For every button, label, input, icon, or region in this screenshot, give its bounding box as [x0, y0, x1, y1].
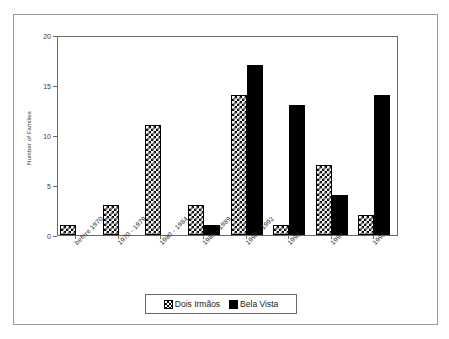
bar — [273, 225, 289, 235]
y-tick-mark — [53, 236, 57, 237]
legend-entry-bela-vista: Bela Vista — [229, 300, 278, 309]
chart-figure: Number of Families 05101520 before 19701… — [0, 0, 449, 339]
legend-swatch-checker-icon — [164, 300, 173, 309]
y-tick-label: 5 — [35, 183, 51, 190]
legend-entry-dois-irmaos: Dois Irmãos — [164, 300, 220, 309]
y-tick-label: 15 — [35, 83, 51, 90]
bar — [103, 205, 119, 235]
bar — [247, 65, 263, 235]
bar — [231, 95, 247, 235]
legend-label-dois-irmaos: Dois Irmãos — [175, 300, 220, 309]
legend-swatch-solid-icon — [229, 300, 238, 309]
bar — [145, 125, 161, 235]
bar — [289, 105, 305, 235]
bar — [374, 95, 390, 235]
bars-layer — [58, 37, 397, 235]
chart-legend: Dois Irmãos Bela Vista — [145, 294, 297, 314]
legend-label-bela-vista: Bela Vista — [240, 300, 278, 309]
bar — [332, 195, 348, 235]
y-tick-label: 0 — [35, 233, 51, 240]
bar — [188, 205, 204, 235]
y-tick-label: 10 — [35, 133, 51, 140]
bar — [358, 215, 374, 235]
bar — [60, 225, 76, 235]
y-tick-label: 20 — [35, 33, 51, 40]
plot-area — [57, 36, 398, 236]
bar — [316, 165, 332, 235]
